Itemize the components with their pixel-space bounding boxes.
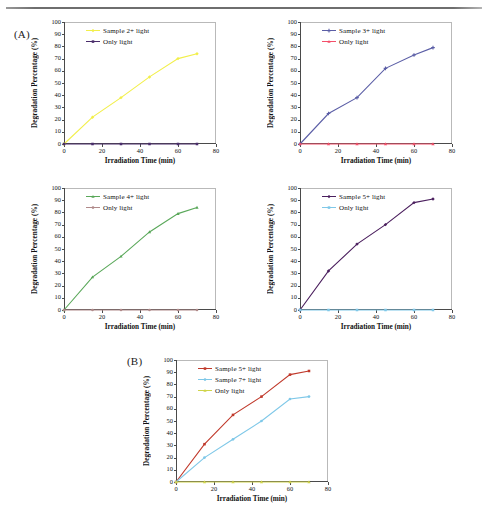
y-tick-label: 90 bbox=[159, 369, 173, 375]
data-point-marker bbox=[148, 309, 151, 312]
y-tick-label: 50 bbox=[283, 246, 297, 252]
legend-item[interactable]: Only light bbox=[322, 203, 385, 212]
legend-item[interactable]: Sample 7+ light bbox=[198, 375, 261, 384]
y-tick-label: 100 bbox=[283, 19, 297, 25]
x-tick-label: 20 bbox=[204, 486, 224, 492]
legend-marker-icon bbox=[198, 375, 212, 384]
x-tick-mark bbox=[216, 144, 217, 147]
x-tick-label: 40 bbox=[366, 148, 386, 154]
y-tick-label: 60 bbox=[283, 233, 297, 239]
y-tick-label: 50 bbox=[283, 80, 297, 86]
x-tick-label: 0 bbox=[54, 314, 74, 320]
y-tick-label: 30 bbox=[283, 270, 297, 276]
data-point-marker bbox=[63, 309, 66, 312]
y-tick-label: 100 bbox=[47, 185, 61, 191]
y-tick-label: 20 bbox=[159, 454, 173, 460]
y-tick-label: 20 bbox=[283, 116, 297, 122]
legend-label: Sample 5+ light bbox=[215, 365, 261, 373]
legend-marker-icon bbox=[86, 192, 100, 201]
x-tick-label: 0 bbox=[290, 314, 310, 320]
legend-marker-icon bbox=[322, 203, 336, 212]
y-tick-label: 30 bbox=[283, 104, 297, 110]
y-tick-label: 90 bbox=[283, 197, 297, 203]
x-tick-label: 60 bbox=[168, 148, 188, 154]
legend-chart-b: Sample 5+ lightSample 7+ lightOnly light bbox=[198, 364, 261, 397]
x-tick-label: 20 bbox=[328, 148, 348, 154]
data-point-marker bbox=[195, 52, 198, 55]
legend-chart-a3: Sample 4+ lightOnly light bbox=[86, 192, 149, 214]
data-point-marker bbox=[299, 309, 302, 312]
x-tick-label: 80 bbox=[206, 148, 226, 154]
data-point-marker bbox=[431, 197, 434, 200]
data-point-marker bbox=[203, 456, 206, 459]
legend-item[interactable]: Only light bbox=[198, 386, 261, 395]
x-tick-label: 80 bbox=[442, 314, 462, 320]
y-tick-label: 60 bbox=[47, 233, 61, 239]
data-point-marker bbox=[289, 398, 292, 401]
legend-item[interactable]: Sample 5+ light bbox=[322, 192, 385, 201]
y-axis-title: Degradation Percentage (%) bbox=[31, 22, 39, 144]
y-tick-label: 30 bbox=[47, 270, 61, 276]
panel-a-label: (A) bbox=[14, 28, 30, 40]
legend-item[interactable]: Sample 5+ light bbox=[198, 364, 261, 373]
x-tick-label: 40 bbox=[130, 314, 150, 320]
y-tick-label: 100 bbox=[283, 185, 297, 191]
legend-label: Only light bbox=[215, 387, 245, 395]
x-tick-label: 0 bbox=[290, 148, 310, 154]
legend-item[interactable]: Only light bbox=[86, 203, 149, 212]
y-tick-label: 40 bbox=[283, 258, 297, 264]
y-axis-title: Degradation Percentage (%) bbox=[143, 360, 151, 482]
legend-item[interactable]: Sample 2+ light bbox=[86, 26, 149, 35]
x-tick-label: 80 bbox=[206, 314, 226, 320]
x-tick-label: 20 bbox=[328, 314, 348, 320]
x-tick-label: 40 bbox=[242, 486, 262, 492]
x-tick-mark bbox=[328, 482, 329, 485]
y-tick-label: 30 bbox=[47, 104, 61, 110]
y-tick-label: 80 bbox=[47, 209, 61, 215]
legend-label: Only light bbox=[339, 204, 369, 212]
y-tick-label: 40 bbox=[47, 92, 61, 98]
y-tick-label: 0 bbox=[159, 479, 173, 485]
legend-item[interactable]: Only light bbox=[86, 37, 149, 46]
legend-chart-a2: Sample 3+ lightOnly light bbox=[322, 26, 385, 48]
figure-root: (A) (B) 0102030405060708090100020406080D… bbox=[0, 0, 488, 515]
legend-chart-a1: Sample 2+ lightOnly light bbox=[86, 26, 149, 48]
y-axis-title: Degradation Percentage (%) bbox=[267, 188, 275, 310]
legend-marker-icon bbox=[322, 192, 336, 201]
x-tick-mark bbox=[452, 310, 453, 313]
legend-marker-icon bbox=[198, 386, 212, 395]
data-point-marker bbox=[232, 438, 235, 441]
legend-label: Sample 7+ light bbox=[215, 376, 261, 384]
legend-marker-icon bbox=[86, 26, 100, 35]
legend-label: Sample 2+ light bbox=[103, 27, 149, 35]
legend-label: Sample 5+ light bbox=[339, 193, 385, 201]
y-tick-label: 0 bbox=[283, 307, 297, 313]
x-tick-label: 20 bbox=[92, 314, 112, 320]
data-point-marker bbox=[120, 143, 123, 146]
y-tick-label: 50 bbox=[47, 80, 61, 86]
legend-item[interactable]: Sample 4+ light bbox=[86, 192, 149, 201]
series-line-1 bbox=[300, 48, 433, 144]
y-tick-label: 70 bbox=[159, 393, 173, 399]
y-tick-label: 0 bbox=[47, 141, 61, 147]
data-point-marker bbox=[308, 370, 311, 373]
y-tick-label: 80 bbox=[283, 209, 297, 215]
data-point-marker bbox=[196, 309, 199, 312]
data-point-marker bbox=[177, 309, 180, 312]
y-tick-label: 20 bbox=[47, 282, 61, 288]
y-tick-label: 20 bbox=[47, 116, 61, 122]
x-tick-label: 40 bbox=[366, 314, 386, 320]
legend-marker-icon bbox=[86, 37, 100, 46]
legend-item[interactable]: Only light bbox=[322, 37, 385, 46]
y-tick-label: 90 bbox=[47, 31, 61, 37]
series-line-1 bbox=[64, 208, 197, 310]
y-tick-label: 0 bbox=[283, 141, 297, 147]
x-tick-label: 60 bbox=[404, 314, 424, 320]
y-tick-label: 100 bbox=[159, 357, 173, 363]
legend-item[interactable]: Sample 3+ light bbox=[322, 26, 385, 35]
data-point-marker bbox=[432, 309, 435, 312]
x-tick-label: 20 bbox=[92, 148, 112, 154]
data-point-marker bbox=[177, 143, 180, 146]
y-tick-label: 70 bbox=[283, 55, 297, 61]
y-tick-label: 70 bbox=[47, 55, 61, 61]
